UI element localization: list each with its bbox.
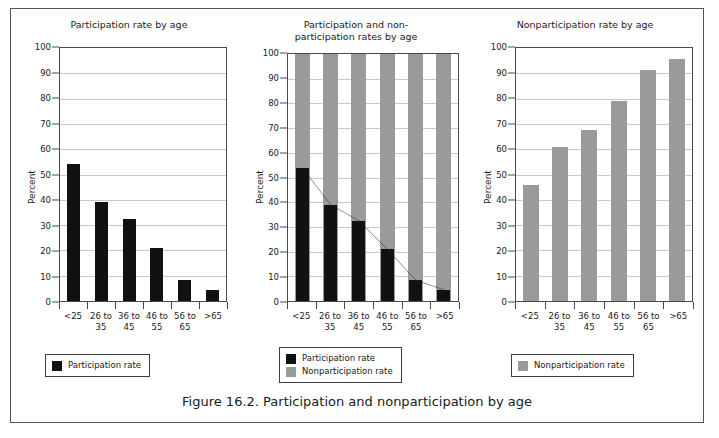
x-tick-mark (87, 302, 88, 309)
y-tick-label: 100 (263, 48, 279, 58)
legend-label-participation: Participation rate (302, 352, 375, 365)
legend-1: Participation rate (45, 354, 150, 377)
bar-participation (123, 219, 136, 301)
chart-title-1: Participation rate by age (17, 19, 241, 31)
chart-title-2-line1: Participation and non- (239, 19, 473, 31)
y-tick-mark (508, 98, 515, 99)
y-tick-mark (508, 123, 515, 124)
y-tick-label: 10 (40, 272, 51, 282)
x-axis-label: 56 to65 (402, 311, 431, 332)
y-tick-mark (508, 47, 515, 48)
y-tick-mark (280, 53, 287, 54)
plot-wrap-3 (515, 47, 693, 302)
y-tick-mark (280, 202, 287, 203)
x-axis-label: 56 to65 (634, 311, 664, 332)
legend-entry-participation: Participation rate (286, 352, 393, 365)
legend-swatch-nonparticipation-icon (518, 361, 528, 371)
bar-slot (198, 48, 226, 301)
y-tick-label: 50 (40, 170, 51, 180)
x-tick-mark (143, 302, 144, 309)
legend-swatch-participation-icon (286, 354, 296, 364)
x-axis-ticks-2 (287, 302, 459, 309)
figure-caption: Figure 16.2. Participation and nonpartic… (11, 394, 703, 409)
y-tick-label: 30 (40, 221, 51, 231)
x-tick-mark (574, 302, 575, 309)
x-axis-labels-3: <2526 to3536 to4546 to5556 to65>65 (515, 311, 693, 332)
y-tick-label: 70 (40, 119, 51, 129)
y-tick-label: 90 (268, 73, 279, 83)
bar-nonparticipation (640, 70, 656, 301)
bars-layer-1 (60, 48, 226, 301)
y-tick-mark (280, 152, 287, 153)
plot-area-1 (59, 47, 227, 302)
legend-entry-nonparticipation: Nonparticipation rate (286, 365, 393, 378)
y-tick-mark (52, 302, 59, 303)
y-tick-label: 50 (496, 170, 507, 180)
y-tick-label: 70 (268, 123, 279, 133)
x-tick-mark (59, 302, 60, 309)
bar-participation (352, 221, 365, 301)
legend-label-participation: Participation rate (68, 359, 141, 372)
chart-panel-nonparticipation: Nonparticipation rate by age Percent 010… (471, 9, 699, 381)
x-tick-mark (634, 302, 635, 309)
x-tick-mark (171, 302, 172, 309)
bar-participation (296, 168, 309, 301)
chart-panel-combined: Participation and non- participation rat… (239, 9, 473, 381)
chart-title-2: Participation and non- participation rat… (239, 19, 473, 43)
x-axis-label: 36 to45 (115, 311, 143, 332)
y-tick-mark (508, 225, 515, 226)
bar-nonparticipation (581, 130, 597, 301)
bar-nonparticipation (408, 54, 423, 301)
y-tick-label: 90 (496, 68, 507, 78)
y-tick-mark (52, 225, 59, 226)
y-tick-mark (280, 127, 287, 128)
y-tick-label: 60 (40, 144, 51, 154)
x-tick-mark (693, 302, 694, 309)
plot-area-3 (515, 47, 693, 302)
bar-slot (171, 48, 199, 301)
bar-nonparticipation (523, 185, 539, 301)
bar-nonparticipation (552, 147, 568, 301)
y-tick-label: 20 (40, 246, 51, 256)
charts-row: Participation rate by age Percent 010203… (11, 9, 705, 381)
y-tick-label: 60 (268, 148, 279, 158)
x-axis-label: >65 (663, 311, 693, 332)
y-tick-label: 0 (46, 297, 51, 307)
y-tick-label: 40 (268, 197, 279, 207)
legend-3: Nonparticipation rate (511, 354, 634, 377)
x-tick-mark (604, 302, 605, 309)
x-axis-label: 36 to45 (344, 311, 373, 332)
y-tick-label: 80 (40, 93, 51, 103)
bar-slot (604, 48, 633, 301)
y-axis-1: 0102030405060708090100 (29, 47, 59, 302)
chart-panel-participation: Participation rate by age Percent 010203… (17, 9, 241, 381)
y-tick-mark (280, 77, 287, 78)
bar-nonparticipation (611, 101, 627, 301)
y-tick-mark (280, 252, 287, 253)
x-axis-label: 36 to45 (574, 311, 604, 332)
bar-slot (88, 48, 116, 301)
y-tick-label: 20 (268, 247, 279, 257)
y-tick-label: 40 (496, 195, 507, 205)
bars-layer-2-participation (288, 54, 458, 301)
y-tick-mark (508, 276, 515, 277)
legend-label-nonparticipation: Nonparticipation rate (302, 365, 393, 378)
y-tick-label: 0 (274, 297, 279, 307)
y-tick-label: 70 (496, 119, 507, 129)
y-tick-mark (508, 302, 515, 303)
x-axis-label: <25 (515, 311, 545, 332)
x-tick-mark (402, 302, 403, 309)
x-axis-label: 26 to35 (87, 311, 115, 332)
y-tick-mark (508, 200, 515, 201)
bar-nonparticipation (436, 54, 451, 301)
bar-participation (324, 205, 337, 301)
y-tick-label: 60 (496, 144, 507, 154)
legend-entry-participation: Participation rate (52, 359, 141, 372)
y-tick-mark (52, 200, 59, 201)
y-tick-mark (508, 174, 515, 175)
y-tick-label: 100 (491, 42, 507, 52)
bar-slot (115, 48, 143, 301)
bars-layer-3 (516, 48, 692, 301)
chart-title-2-line2: participation rates by age (239, 31, 473, 43)
bar-participation (178, 280, 191, 302)
